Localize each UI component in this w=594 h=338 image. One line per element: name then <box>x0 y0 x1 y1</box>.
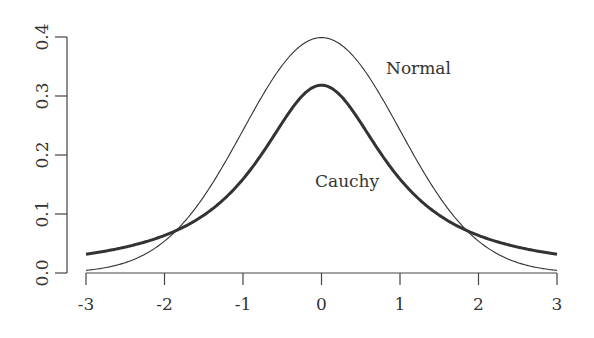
x-tick-label: 3 <box>552 294 563 314</box>
y-tick-label: 0.0 <box>32 259 52 286</box>
y-tick-label: 0.1 <box>32 200 52 227</box>
y-tick-label: 0.4 <box>32 23 52 50</box>
cauchy-label: Cauchy <box>315 171 380 191</box>
y-tick-label: 0.3 <box>32 82 52 109</box>
x-tick-label: 2 <box>473 294 484 314</box>
x-tick-label: 0 <box>316 294 327 314</box>
cauchy-curve <box>86 85 557 254</box>
x-tick-label: -3 <box>78 294 95 314</box>
y-tick-label: 0.2 <box>32 141 52 168</box>
x-tick-label: -2 <box>156 294 173 314</box>
x-tick-label: 1 <box>395 294 406 314</box>
x-tick-label: -1 <box>235 294 252 314</box>
density-chart: 0.00.10.20.30.4 -3-2-10123 Normal Cauchy <box>0 0 594 338</box>
y-axis: 0.00.10.20.30.4 <box>32 23 67 286</box>
x-axis: -3-2-10123 <box>78 273 563 314</box>
normal-curve <box>86 38 557 271</box>
normal-label: Normal <box>386 58 451 78</box>
